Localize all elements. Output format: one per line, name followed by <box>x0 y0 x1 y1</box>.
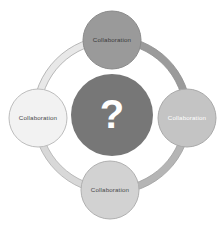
node-left[interactable]: Collaboration <box>9 89 67 147</box>
node-bottom-label: Collaboration <box>91 186 130 193</box>
diagram-canvas: ? Collaboration Collaboration Collaborat… <box>0 0 224 231</box>
question-mark-glyph: ? <box>100 92 124 136</box>
collaboration-wheel-diagram: ? Collaboration Collaboration Collaborat… <box>0 0 224 231</box>
node-right[interactable]: Collaboration <box>158 89 216 147</box>
node-top-label: Collaboration <box>93 36 132 43</box>
center-hub: ? <box>71 74 153 156</box>
node-bottom[interactable]: Collaboration <box>81 161 139 219</box>
node-top[interactable]: Collaboration <box>83 11 141 69</box>
node-right-label: Collaboration <box>168 114 207 121</box>
node-left-label: Collaboration <box>19 114 58 121</box>
